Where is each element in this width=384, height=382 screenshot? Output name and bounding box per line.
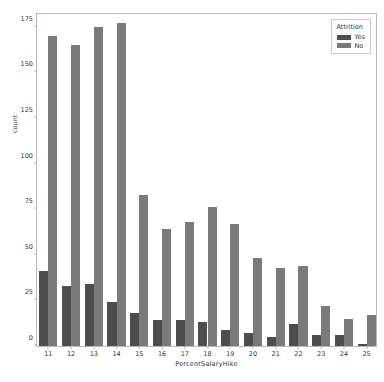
bar-no-25: [367, 315, 376, 346]
bar-no-21: [276, 268, 285, 346]
y-axis-label: count: [11, 84, 18, 164]
bar-no-16: [162, 229, 171, 346]
y-tick-mark: [34, 25, 37, 26]
bar-no-14: [117, 23, 126, 346]
y-tick-mark: [34, 116, 37, 117]
bar-no-22: [298, 266, 307, 346]
x-tick-label: 25: [362, 350, 370, 358]
y-tick-label: 75: [25, 197, 37, 205]
x-tick-label: 24: [340, 350, 348, 358]
x-tick-label: 23: [317, 350, 325, 358]
y-tick-mark: [34, 299, 37, 300]
legend-item-no: No: [337, 43, 366, 50]
bar-no-11: [48, 36, 57, 346]
bar-yes-11: [39, 271, 48, 346]
x-tick-label: 21: [272, 350, 280, 358]
x-tick-mark: [116, 346, 117, 349]
y-tick-mark: [34, 162, 37, 163]
y-tick-label: 150: [21, 60, 37, 68]
x-tick-label: 19: [226, 350, 234, 358]
bar-yes-21: [267, 337, 276, 346]
x-tick-label: 14: [112, 350, 120, 358]
legend: Attrition YesNo: [331, 19, 372, 54]
y-tick-mark: [34, 208, 37, 209]
x-tick-label: 12: [67, 350, 75, 358]
legend-item-yes: Yes: [337, 34, 366, 41]
x-tick-label: 20: [249, 350, 257, 358]
y-tick-label: 50: [25, 243, 37, 251]
bar-yes-13: [85, 284, 94, 346]
plot-area: count PercentSalaryHike 0255075100125150…: [36, 13, 377, 347]
x-axis-label: PercentSalaryHike: [37, 360, 376, 368]
legend-label: No: [355, 43, 364, 50]
y-tick-label: 25: [25, 288, 37, 296]
bar-yes-25: [358, 344, 367, 346]
y-tick-mark: [34, 253, 37, 254]
legend-label: Yes: [355, 34, 366, 41]
bar-no-18: [208, 207, 217, 346]
legend-swatch-icon: [337, 43, 351, 48]
bar-yes-19: [221, 330, 230, 346]
x-tick-mark: [230, 346, 231, 349]
bar-no-15: [139, 195, 148, 346]
x-tick-mark: [298, 346, 299, 349]
x-tick-label: 16: [158, 350, 166, 358]
bar-yes-22: [289, 324, 298, 346]
y-tick-mark: [34, 345, 37, 346]
bar-no-13: [94, 27, 103, 346]
bar-yes-16: [153, 320, 162, 346]
y-tick-mark: [34, 71, 37, 72]
x-tick-mark: [184, 346, 185, 349]
x-tick-mark: [207, 346, 208, 349]
x-tick-label: 18: [203, 350, 211, 358]
bar-no-12: [71, 45, 80, 346]
bar-no-24: [344, 319, 353, 346]
bar-yes-24: [335, 335, 344, 346]
y-tick-label: 100: [21, 152, 37, 160]
bar-yes-18: [198, 322, 207, 346]
bar-no-19: [230, 224, 239, 346]
x-tick-label: 22: [294, 350, 302, 358]
x-tick-label: 13: [90, 350, 98, 358]
x-tick-mark: [139, 346, 140, 349]
x-tick-mark: [252, 346, 253, 349]
x-tick-label: 15: [135, 350, 143, 358]
bar-yes-15: [130, 313, 139, 346]
bar-yes-20: [244, 333, 253, 346]
y-tick-label: 0: [29, 334, 37, 342]
x-tick-label: 17: [181, 350, 189, 358]
legend-swatch-icon: [337, 35, 351, 40]
x-tick-mark: [162, 346, 163, 349]
x-tick-mark: [71, 346, 72, 349]
legend-items: YesNo: [337, 34, 366, 49]
y-tick-label: 175: [21, 15, 37, 23]
legend-title: Attrition: [337, 23, 366, 31]
bar-no-17: [185, 222, 194, 346]
bar-yes-23: [312, 335, 321, 346]
x-tick-mark: [48, 346, 49, 349]
bar-no-23: [321, 306, 330, 346]
bar-yes-12: [62, 286, 71, 346]
bar-yes-14: [107, 302, 116, 346]
x-tick-mark: [93, 346, 94, 349]
x-tick-label: 11: [44, 350, 52, 358]
x-tick-mark: [343, 346, 344, 349]
x-tick-mark: [275, 346, 276, 349]
x-tick-mark: [366, 346, 367, 349]
y-tick-label: 125: [21, 106, 37, 114]
bar-no-20: [253, 258, 262, 346]
x-tick-mark: [321, 346, 322, 349]
bar-yes-17: [176, 320, 185, 346]
bar-chart-figure: count PercentSalaryHike 0255075100125150…: [0, 0, 384, 382]
